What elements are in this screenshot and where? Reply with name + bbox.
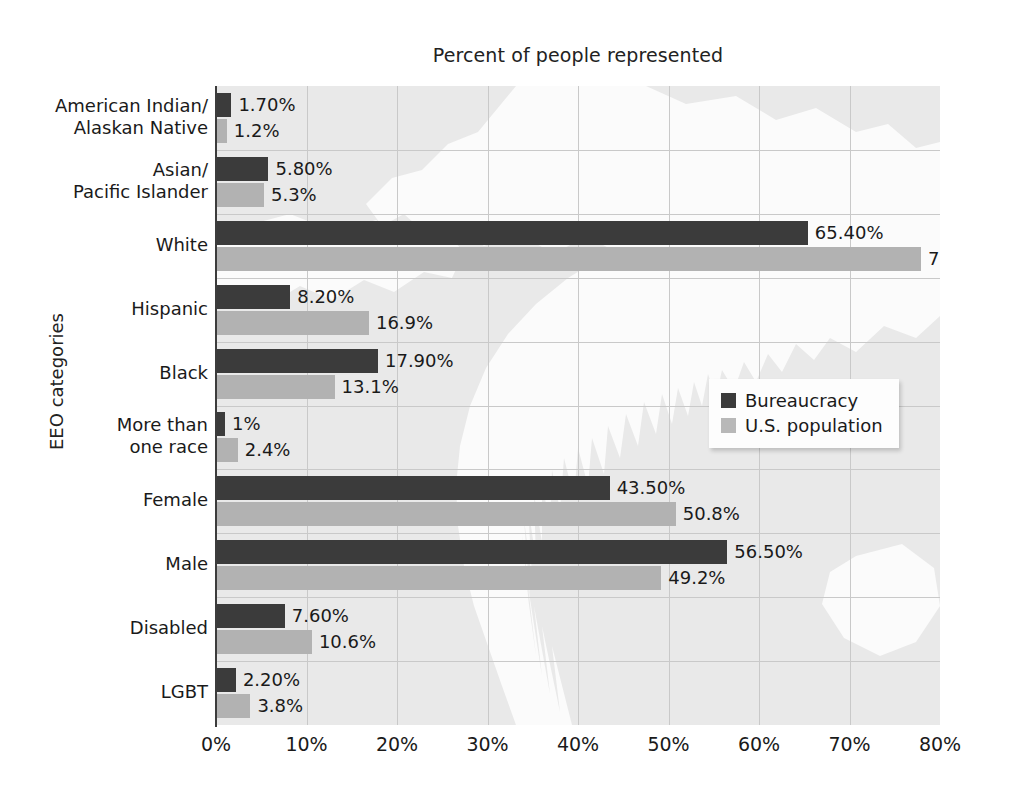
category-label: Disabled [8,617,208,639]
bar-value-label: 77.9% [928,250,940,268]
category-label: LGBT [8,681,208,703]
chart-legend: BureaucracyU.S. population [709,379,899,448]
bar-dark [216,412,225,436]
x-tick-label: 80% [900,733,980,755]
gridline-horizontal [216,661,940,662]
y-axis-line [215,86,217,727]
gridline-horizontal [216,150,940,151]
category-label: Male [8,553,208,575]
x-tick-label: 20% [357,733,437,755]
bar-value-label: 16.9% [376,314,433,332]
bar-value-label: 1.70% [238,96,295,114]
x-tick-label: 10% [267,733,347,755]
bar-value-label: 3.8% [257,697,303,715]
category-label-line: Hispanic [8,298,208,320]
gridline-horizontal [216,469,940,470]
bar-value-label: 50.8% [683,505,740,523]
bar-value-label: 13.1% [342,378,399,396]
chart-title: Percent of people represented [216,44,940,66]
bar-light [216,566,661,590]
gridline-horizontal [216,278,940,279]
gridline-horizontal [216,214,940,215]
legend-label: U.S. population [745,415,883,436]
x-tick-label: 0% [176,733,256,755]
bar-light [216,183,264,207]
legend-item: Bureaucracy [721,388,883,413]
bar-value-label: 5.3% [271,186,317,204]
legend-swatch-icon [721,418,736,433]
category-label-line: Male [8,553,208,575]
bar-value-label: 7.60% [292,607,349,625]
category-label-line: White [8,234,208,256]
category-label-line: Disabled [8,617,208,639]
bar-value-label: 56.50% [734,543,803,561]
legend-swatch-icon [721,393,736,408]
bar-dark [216,221,808,245]
bar-value-label: 1% [232,415,261,433]
bar-value-label: 43.50% [617,479,686,497]
bar-value-label: 2.20% [243,671,300,689]
bar-chart: Percent of people represented EEO catego… [0,0,1033,806]
gridline-horizontal [216,533,940,534]
bar-value-label: 5.80% [275,160,332,178]
bar-value-label: 10.6% [319,633,376,651]
category-label: Female [8,489,208,511]
bar-light [216,694,250,718]
x-tick-label: 70% [810,733,890,755]
bar-value-label: 1.2% [234,122,280,140]
bar-dark [216,285,290,309]
bar-value-label: 17.90% [385,352,454,370]
category-label-line: LGBT [8,681,208,703]
bar-dark [216,157,268,181]
bar-light [216,247,921,271]
bar-dark [216,93,231,117]
category-label-line: Pacific Islander [8,181,208,203]
x-tick-label: 50% [629,733,709,755]
bar-value-label: 2.4% [245,441,291,459]
x-tick-label: 60% [719,733,799,755]
gridline-horizontal [216,342,940,343]
bar-value-label: 8.20% [297,288,354,306]
gridline-horizontal [216,597,940,598]
x-tick-label: 40% [538,733,618,755]
bar-light [216,119,227,143]
category-label-line: American Indian/ [8,95,208,117]
category-label: Black [8,362,208,384]
category-label: White [8,234,208,256]
bar-light [216,502,676,526]
category-label: More thanone race [8,414,208,458]
bar-light [216,438,238,462]
category-label-line: Alaskan Native [8,117,208,139]
category-label-line: Black [8,362,208,384]
bar-value-label: 49.2% [668,569,725,587]
category-label-line: Asian/ [8,159,208,181]
category-label-line: one race [8,436,208,458]
x-tick-label: 30% [448,733,528,755]
bar-light [216,375,335,399]
bar-light [216,630,312,654]
category-label: American Indian/Alaskan Native [8,95,208,139]
bar-light [216,311,369,335]
category-label-line: More than [8,414,208,436]
bar-dark [216,349,378,373]
category-label-line: Female [8,489,208,511]
bar-dark [216,604,285,628]
category-label: Hispanic [8,298,208,320]
legend-label: Bureaucracy [745,390,858,411]
legend-item: U.S. population [721,413,883,438]
bar-dark [216,668,236,692]
bar-dark [216,540,727,564]
bar-dark [216,476,610,500]
category-label: Asian/Pacific Islander [8,159,208,203]
bar-value-label: 65.40% [815,224,884,242]
